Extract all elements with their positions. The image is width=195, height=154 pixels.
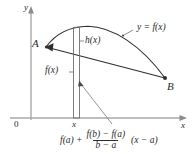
- vertical-strip: [74, 27, 80, 118]
- secant-chord: [46, 47, 165, 78]
- height-hx-label: h(x): [85, 36, 100, 46]
- x-axis: [10, 115, 187, 121]
- secant-line-formula: f(a) + f(b) − f(a) b − a (x − a): [60, 130, 158, 151]
- formula-tail: (x − a): [131, 135, 157, 145]
- x-axis-label: x: [181, 121, 185, 130]
- curve-label-leader: [122, 30, 133, 37]
- mvt-figure: y x 0 x A B y = f(x) h(x) f(x) f(a) + f(…: [0, 0, 195, 154]
- formula-lead: f(a) +: [60, 135, 83, 145]
- x-tick-label: x: [72, 120, 76, 129]
- point-a-label: A: [32, 38, 39, 49]
- point-b-label: B: [167, 81, 174, 92]
- y-axis: [28, 6, 34, 120]
- function-value-label: f(x): [45, 66, 58, 76]
- point-a-marker: [45, 43, 54, 51]
- y-axis-label: y: [24, 3, 28, 12]
- origin-label: 0: [14, 120, 19, 129]
- curve-equation-label: y = f(x): [137, 23, 166, 33]
- formula-numerator: f(b) − f(a): [85, 130, 128, 140]
- formula-fraction: f(b) − f(a) b − a: [85, 130, 128, 151]
- formula-denominator: b − a: [93, 140, 118, 151]
